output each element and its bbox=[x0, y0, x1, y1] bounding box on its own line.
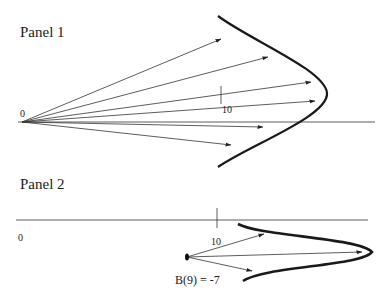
diagram-canvas bbox=[0, 0, 388, 297]
panel-2-arrow bbox=[187, 234, 264, 257]
panel-1-arrow bbox=[22, 57, 268, 122]
panel-2-arrow bbox=[187, 257, 252, 271]
panel-1-arrow bbox=[22, 82, 311, 122]
panel-1-distribution-curve bbox=[218, 16, 327, 167]
panel-2-start-point bbox=[185, 254, 189, 261]
panel-1-diagram bbox=[18, 16, 375, 167]
panel-2-diagram bbox=[16, 208, 372, 281]
panel-2-arrow bbox=[187, 252, 362, 257]
panel-1-arrow bbox=[22, 101, 315, 122]
